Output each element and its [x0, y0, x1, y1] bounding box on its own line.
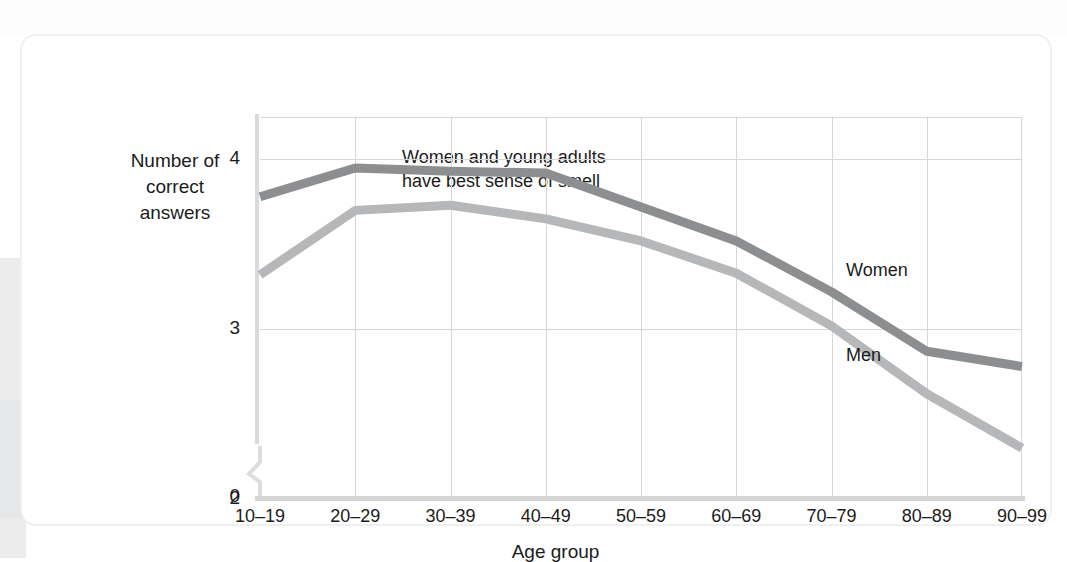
x-tick-label: 10–19 [205, 506, 315, 527]
series-line-men [260, 205, 1022, 448]
x-tick-label: 60–69 [681, 506, 791, 527]
y-axis-title-line2: correct answers [110, 174, 240, 226]
x-tick-label: 80–89 [872, 506, 982, 527]
x-tick-label: 30–39 [396, 506, 506, 527]
grid-line-horizontal [260, 499, 1022, 500]
series-layer [260, 117, 1022, 499]
x-tick-label: 50–59 [586, 506, 696, 527]
x-axis-title: Age group [22, 541, 1067, 562]
page-scan-artifact-top [0, 0, 1067, 34]
x-tick-label: 40–49 [491, 506, 601, 527]
figure-card: Number of correct answers Women and youn… [20, 34, 1052, 526]
x-tick-label: 90–99 [967, 506, 1067, 527]
plot-area [260, 117, 1022, 499]
y-axis-line [255, 114, 259, 444]
y-tick-label: 0 [200, 485, 240, 507]
x-tick-label: 20–29 [300, 506, 410, 527]
y-tick-label: 3 [200, 317, 240, 339]
series-label-women: Women [846, 260, 908, 281]
y-tick-label: 4 [200, 147, 240, 169]
x-tick-label: 70–79 [777, 506, 887, 527]
series-label-men: Men [846, 345, 881, 366]
